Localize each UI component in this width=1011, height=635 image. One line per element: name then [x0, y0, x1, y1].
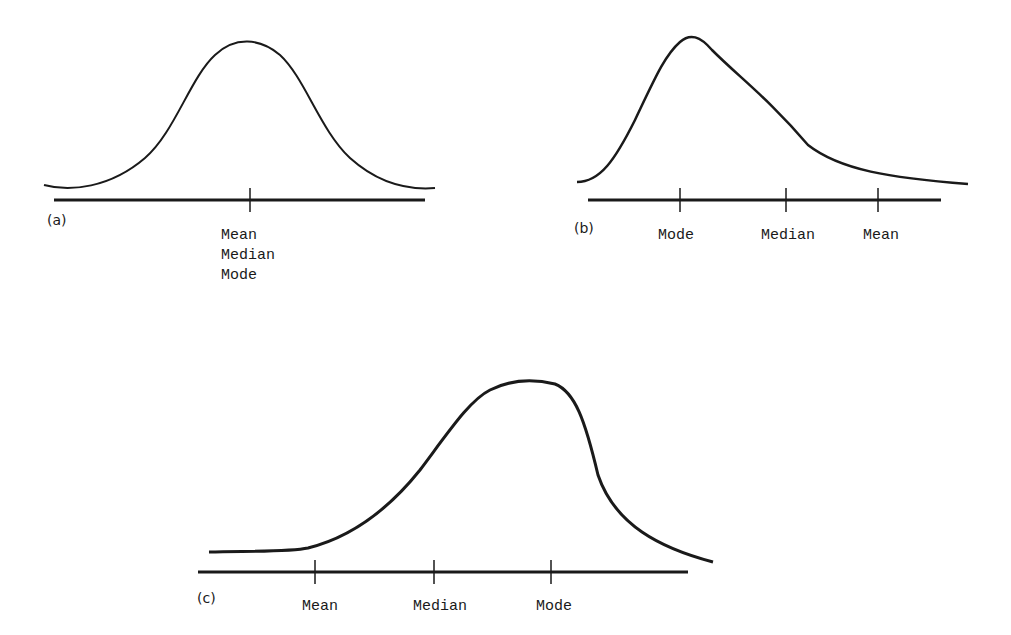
panel-b-label: (b): [574, 220, 594, 236]
label-median: Median: [221, 246, 275, 266]
right-skewed-curve: [577, 37, 968, 184]
label-mode: Mode: [658, 226, 694, 246]
label-mean: Mean: [302, 597, 338, 617]
symmetric-curve: [44, 41, 435, 188]
panel-c-label: (c): [197, 590, 216, 606]
label-mean: Mean: [221, 226, 275, 246]
left-skewed-curve: [209, 381, 713, 562]
diagram-canvas: [0, 0, 1011, 635]
label-mode: Mode: [536, 597, 572, 617]
panel-a-label: (a): [47, 212, 67, 228]
panel-a-graphics: [44, 41, 435, 212]
panel-c-graphics: [198, 381, 713, 584]
panel-a-tick-labels: Mean Median Mode: [221, 226, 275, 286]
label-median: Median: [761, 226, 815, 246]
panel-b-graphics: [577, 37, 968, 212]
label-median: Median: [413, 597, 467, 617]
label-mean: Mean: [863, 226, 899, 246]
label-mode: Mode: [221, 266, 275, 286]
